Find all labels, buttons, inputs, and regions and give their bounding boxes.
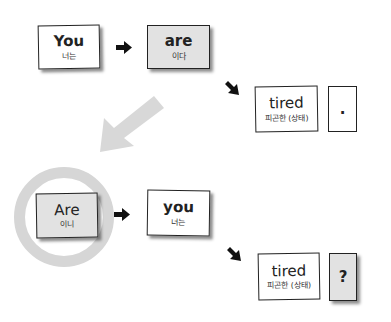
card-tired-question: tired 피곤한 (상태) bbox=[258, 252, 321, 300]
arrow-right-icon bbox=[116, 41, 132, 54]
card-you-question: you 너는 bbox=[147, 190, 211, 237]
card-word: You bbox=[54, 33, 85, 50]
arrow-down-right-icon bbox=[227, 247, 241, 261]
card-gloss: 피곤한 (상태) bbox=[267, 282, 311, 291]
arrow-down-right-icon bbox=[225, 81, 239, 95]
card-you: You 너는 bbox=[38, 24, 101, 69]
card-gloss: 너는 bbox=[62, 53, 76, 61]
card-word: you bbox=[163, 199, 194, 216]
end-mark: ? bbox=[339, 268, 348, 286]
card-are: are 이다 bbox=[147, 25, 210, 69]
card-gloss: 이니 bbox=[60, 221, 74, 229]
card-gloss: 피곤한 (상태) bbox=[265, 114, 309, 123]
arrow-right-icon bbox=[114, 208, 130, 221]
card-word: are bbox=[165, 33, 193, 50]
card-are-question: Are 이니 bbox=[36, 192, 99, 238]
end-mark: . bbox=[340, 100, 346, 118]
card-period: . bbox=[328, 86, 357, 132]
card-gloss: 이다 bbox=[172, 53, 186, 61]
card-question-mark: ? bbox=[329, 253, 357, 301]
card-tired: tired 피곤한 (상태) bbox=[255, 85, 319, 132]
card-word: tired bbox=[271, 262, 306, 279]
card-word: tired bbox=[269, 95, 304, 112]
card-gloss: 너는 bbox=[171, 219, 185, 227]
card-word: Are bbox=[54, 202, 80, 219]
transform-arrow-icon bbox=[98, 96, 164, 154]
